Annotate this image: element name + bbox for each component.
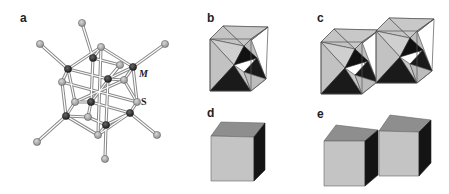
cube-e-left (324, 125, 378, 186)
cube-e-right (379, 115, 431, 176)
stellated-octahedron-c-right (376, 18, 434, 83)
stellated-octahedron-c-left (321, 29, 379, 94)
cube-d (211, 122, 265, 181)
stellated-octahedron-b (210, 26, 268, 91)
cluster-structure (33, 19, 168, 162)
cube-front-face (211, 136, 254, 181)
